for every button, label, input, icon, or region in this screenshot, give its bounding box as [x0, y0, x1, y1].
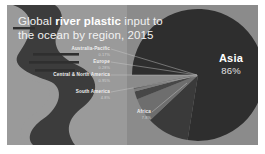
- infographic-card: Global river plastic input to the ocean …: [7, 5, 258, 145]
- callout-australia-pacific: Australia-Pacific 0.17%: [71, 46, 110, 57]
- callout-central-north-america-pct: 0.95%: [53, 78, 110, 83]
- asia-percent: 86%: [203, 65, 258, 76]
- callout-central-north-america-name: Central & North America: [53, 72, 110, 77]
- callout-europe-name: Europe: [93, 59, 110, 64]
- asia-name: Asia: [203, 52, 258, 64]
- leader-line-europe: [111, 62, 197, 75]
- callout-africa: Africa 7.8%: [137, 109, 151, 120]
- infographic-canvas: Global river plastic input to the ocean …: [0, 0, 265, 154]
- leader-line-australia-pacific: [111, 49, 197, 75]
- callout-africa-pct: 7.8%: [137, 115, 151, 120]
- callout-south-america-pct: 4.8%: [76, 95, 110, 100]
- callout-australia-pacific-pct: 0.17%: [71, 52, 110, 57]
- leader-line-south-america: [111, 76, 197, 92]
- callout-europe: Europe 0.28%: [93, 59, 110, 70]
- callout-south-america: South America 4.8%: [76, 89, 110, 100]
- callout-europe-pct: 0.28%: [93, 65, 110, 70]
- callout-central-north-america: Central & North America 0.95%: [53, 72, 110, 83]
- callout-australia-pacific-name: Australia-Pacific: [71, 46, 110, 51]
- callout-africa-name: Africa: [137, 109, 151, 114]
- asia-highlight-label: Asia 86%: [203, 52, 258, 76]
- leader-line-africa: [152, 83, 187, 112]
- callout-south-america-name: South America: [76, 89, 110, 94]
